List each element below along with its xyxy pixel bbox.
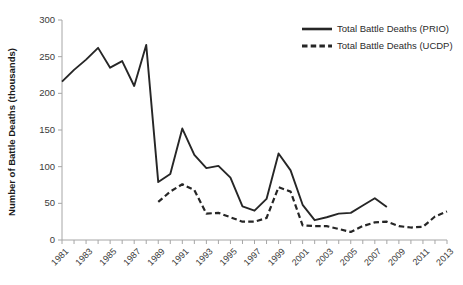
x-tick-label: 1997 [242, 246, 263, 267]
x-tick-label: 2005 [338, 246, 359, 267]
y-tick-label: 150 [39, 124, 55, 135]
legend-label: Total Battle Deaths (PRIO) [337, 23, 449, 34]
y-tick-label: 100 [39, 161, 55, 172]
series-layer [62, 45, 447, 232]
chart-legend: Total Battle Deaths (PRIO)Total Battle D… [302, 23, 453, 51]
x-tick-label: 1993 [194, 246, 215, 267]
x-tick-label: 1981 [49, 246, 70, 267]
x-tick-label: 1983 [73, 246, 94, 267]
legend-label: Total Battle Deaths (UCDP) [337, 40, 453, 51]
x-tick-label: 2011 [411, 246, 432, 267]
x-tick-label: 2009 [386, 246, 407, 267]
x-tick-label: 1991 [169, 246, 190, 267]
x-tick-label: 2013 [434, 246, 455, 267]
y-tick-label: 200 [39, 87, 55, 98]
x-tick-label: 1999 [266, 246, 287, 267]
chart-canvas: 050100150200250300 198119831985198719891… [0, 0, 463, 285]
x-tick-label: 1987 [121, 246, 142, 267]
y-tick-label: 50 [44, 197, 55, 208]
y-axis: 050100150200250300 [39, 14, 62, 245]
series-line-prio [62, 45, 387, 220]
y-axis-title: Number of Battle Deaths (thousands) [6, 48, 17, 216]
y-tick-label: 250 [39, 51, 55, 62]
battle-deaths-line-chart: 050100150200250300 198119831985198719891… [0, 0, 463, 285]
x-tick-label: 1995 [218, 246, 239, 267]
x-tick-label: 2003 [314, 246, 335, 267]
x-axis: 1981198319851987198919911993199519971999… [49, 240, 455, 268]
y-tick-label: 0 [50, 234, 55, 245]
x-tick-label: 2001 [290, 246, 311, 267]
series-line-ucdp [158, 184, 447, 232]
x-tick-label: 1989 [145, 246, 166, 267]
y-tick-label: 300 [39, 14, 55, 25]
x-tick-label: 2007 [362, 246, 383, 267]
x-tick-label: 1985 [97, 246, 118, 267]
